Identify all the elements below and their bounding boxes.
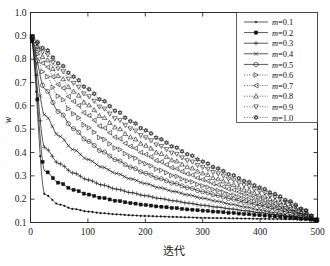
filled-square-marker	[144, 203, 147, 206]
dot-marker	[68, 207, 70, 209]
plus-marker	[207, 204, 212, 209]
x-tick-label: 500	[310, 227, 325, 237]
x-tick-label: 400	[253, 227, 268, 237]
hexagram-marker	[232, 173, 236, 178]
cross-marker	[79, 152, 83, 156]
dot-marker	[240, 218, 242, 220]
left-triangle-marker	[138, 150, 142, 155]
filled-square-marker	[160, 205, 163, 208]
plus-marker	[82, 177, 87, 182]
filled-square-marker	[87, 193, 90, 196]
filled-square-marker	[227, 211, 230, 214]
right-triangle-marker	[66, 106, 70, 111]
dot-marker	[51, 199, 53, 201]
filled-square-marker	[165, 206, 168, 209]
right-triangle-marker	[227, 192, 231, 197]
x-tick-label: 300	[196, 227, 211, 237]
legend-value: =1.0	[278, 114, 293, 123]
x-axis-tick-labels: 0100200300400500	[28, 227, 325, 237]
filled-square-marker	[155, 205, 158, 208]
dot-marker	[72, 208, 74, 210]
plus-marker	[154, 196, 159, 201]
cross-marker	[63, 138, 67, 142]
up-triangle-marker	[149, 146, 154, 150]
filled-square-marker	[273, 215, 276, 218]
plus-marker	[158, 196, 163, 201]
dot-marker	[116, 213, 118, 215]
filled-square-marker	[139, 203, 142, 206]
y-tick-label: 0.1	[15, 218, 27, 228]
filled-square-marker	[93, 194, 96, 197]
filled-square-marker	[201, 209, 204, 212]
right-triangle-marker	[232, 193, 236, 198]
plus-marker	[138, 193, 143, 198]
y-tick-label: 0.6	[15, 101, 27, 111]
y-axis-title: w	[2, 116, 13, 123]
filled-square-marker	[217, 210, 220, 213]
cross-marker	[207, 198, 211, 202]
cross-marker	[67, 144, 71, 148]
dot-marker	[232, 217, 234, 219]
hexagram-marker	[170, 144, 174, 149]
dot-marker	[180, 216, 182, 218]
filled-square-marker	[129, 202, 132, 205]
plus-marker	[78, 174, 83, 179]
dot-marker	[260, 218, 262, 220]
cross-marker	[163, 187, 167, 191]
filled-square-marker	[180, 207, 183, 210]
right-triangle-marker	[103, 137, 107, 142]
plus-marker	[179, 200, 184, 205]
right-triangle-marker	[113, 146, 117, 151]
filled-square-marker	[186, 208, 189, 211]
plus-marker	[171, 198, 176, 203]
dot-marker	[55, 203, 57, 205]
dot-marker	[252, 218, 254, 220]
hexagram-marker	[258, 185, 262, 190]
plus-marker	[42, 145, 47, 150]
plus-marker	[70, 171, 75, 176]
down-triangle-marker	[66, 77, 71, 81]
dot-marker	[160, 216, 162, 218]
right-triangle-marker	[61, 98, 65, 103]
filled-square-marker	[51, 176, 54, 179]
dot-marker	[224, 217, 226, 219]
left-triangle-marker	[169, 165, 173, 170]
hexagram-marker	[206, 161, 210, 166]
x-tick-label: 100	[81, 227, 96, 237]
dot-marker	[148, 215, 150, 217]
dot-marker	[264, 218, 266, 220]
left-triangle-marker	[190, 173, 194, 178]
plus-marker	[195, 202, 200, 207]
filled-square-marker	[263, 214, 266, 217]
dot-marker	[200, 217, 202, 219]
cross-marker	[91, 160, 95, 164]
y-tick-label: 0.7	[15, 78, 27, 88]
dot-marker	[212, 217, 214, 219]
cross-marker	[46, 116, 50, 120]
up-triangle-marker	[221, 179, 226, 183]
dot-marker	[152, 215, 154, 217]
left-triangle-marker	[195, 176, 199, 181]
hexagram-marker	[118, 110, 122, 115]
up-triangle-marker	[82, 100, 87, 104]
plus-marker	[102, 183, 107, 188]
cross-marker	[167, 189, 171, 193]
filled-square-marker	[77, 190, 80, 193]
dot-marker	[132, 214, 134, 216]
filled-square-marker	[72, 188, 75, 191]
dot-marker	[164, 216, 166, 218]
plus-marker	[122, 189, 127, 194]
left-triangle-marker	[113, 135, 117, 140]
right-triangle-marker	[118, 147, 122, 152]
dot-marker	[84, 210, 86, 212]
plus-marker	[142, 193, 147, 198]
y-tick-label: 1.0	[15, 8, 27, 18]
plus-marker	[50, 154, 55, 159]
dot-marker	[256, 218, 258, 220]
hexagram-marker	[227, 172, 231, 177]
left-triangle-marker	[133, 146, 137, 151]
dot-marker	[140, 215, 142, 217]
plus-marker	[223, 206, 228, 211]
up-triangle-marker	[128, 135, 133, 139]
filled-square-marker	[46, 171, 49, 174]
